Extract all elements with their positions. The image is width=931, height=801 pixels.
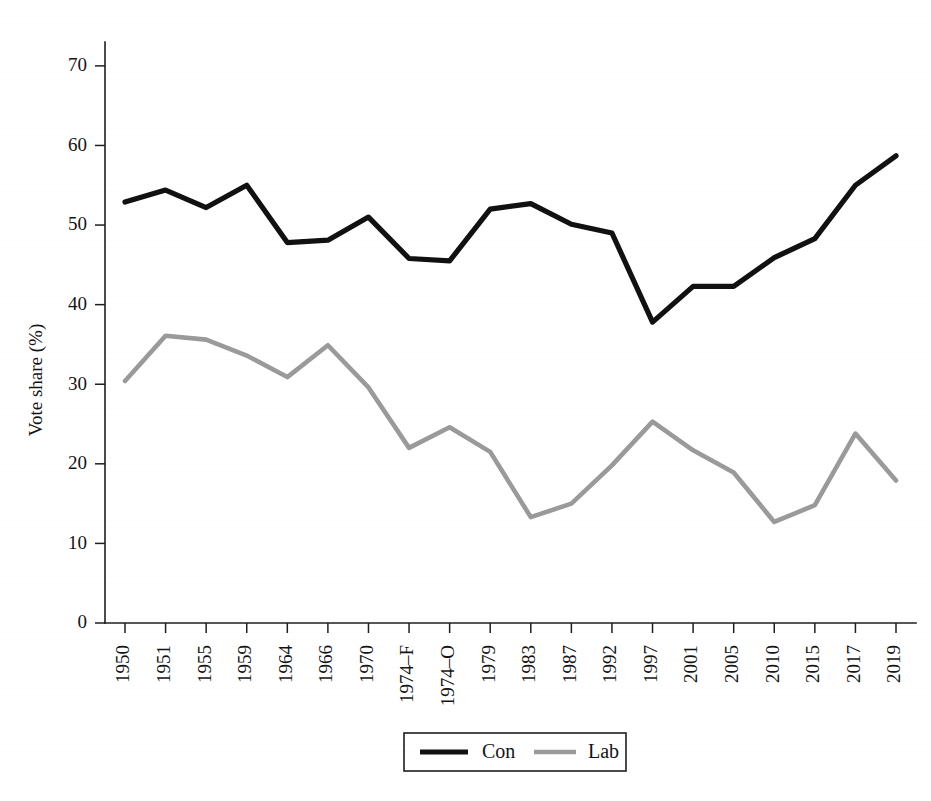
x-tick-label: 1955 [194, 645, 215, 683]
legend-label-con: Con [482, 740, 515, 762]
y-tick-label: 50 [68, 213, 87, 234]
x-tick-label: 1950 [112, 645, 133, 683]
series-line-con [125, 156, 896, 322]
x-tick-label: 1992 [599, 645, 620, 683]
x-tick-label: 1966 [315, 645, 336, 683]
x-tick-label: 1987 [559, 645, 580, 683]
x-tick-label: 1964 [275, 645, 296, 684]
series-line-lab [125, 336, 896, 522]
series-group [125, 156, 896, 522]
y-tick-label: 0 [78, 611, 88, 632]
vote-share-line-chart: Vote share (%) 010203040506070 195019511… [0, 0, 931, 801]
x-tick-label: 1979 [478, 645, 499, 683]
y-tick-label: 10 [68, 532, 87, 553]
x-tick-label: 1997 [640, 645, 661, 683]
x-tick-label: 1974–O [437, 645, 458, 706]
x-tick-label: 2019 [883, 645, 904, 683]
x-tick-label: 1951 [153, 645, 174, 683]
x-tick-label: 2010 [762, 645, 783, 683]
x-tick-label: 2001 [680, 645, 701, 683]
x-tick-label: 1970 [356, 645, 377, 683]
y-tick-label: 60 [68, 134, 87, 155]
axes [105, 42, 916, 623]
x-tick-label: 2015 [802, 645, 823, 683]
legend-label-lab: Lab [588, 740, 619, 762]
chart-figure: Vote share (%) 010203040506070 195019511… [0, 0, 931, 801]
x-tick-label: 1983 [518, 645, 539, 683]
y-tick-label: 40 [68, 293, 87, 314]
chart-legend: Con Lab [404, 733, 626, 771]
x-axis-ticks: 19501951195519591964196619701974–F1974–O… [112, 623, 904, 706]
y-tick-label: 70 [68, 54, 87, 75]
x-tick-label: 2005 [721, 645, 742, 683]
y-tick-label: 30 [68, 373, 87, 394]
x-tick-label: 2017 [843, 645, 864, 683]
y-axis-ticks: 010203040506070 [68, 54, 105, 632]
y-axis-title: Vote share (%) [25, 324, 47, 437]
x-tick-label: 1974–F [396, 645, 417, 703]
y-tick-label: 20 [68, 452, 87, 473]
x-tick-label: 1959 [234, 645, 255, 683]
